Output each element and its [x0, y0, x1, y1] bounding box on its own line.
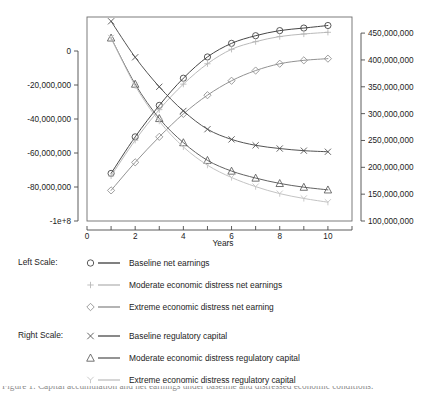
figure-caption-text: Figure 1. Capital accumulation and net e… — [2, 386, 373, 391]
legend-item[interactable]: Extreme economic distress regulatory cap… — [84, 373, 296, 387]
left-axis: 0-20,000,000-40,000,000-60,000,000-80,00… — [27, 47, 78, 226]
chart-series — [107, 34, 331, 193]
right-axis-tick-label: 450,000,000 — [368, 29, 414, 38]
legend-line-swatch — [97, 352, 121, 364]
legend-item-label: Baseline net earnings — [129, 257, 210, 269]
left-axis-tick-label: -20,000,000 — [27, 81, 71, 90]
legend-item[interactable]: Baseline net earnings — [84, 256, 210, 270]
chart-series — [107, 55, 331, 194]
plot-frame — [87, 17, 352, 221]
x-axis-tick-label: 2 — [133, 232, 138, 241]
legend-item[interactable]: Moderate economic distress net earnings — [84, 278, 282, 292]
chart-canvas: 0-20,000,000-40,000,000-60,000,000-80,00… — [0, 0, 443, 250]
legend-marker-plus-icon — [84, 279, 97, 291]
series-layer — [107, 18, 331, 205]
right-axis-tick-label: 100,000,000 — [368, 217, 414, 226]
x-axis-title: Years — [212, 238, 233, 248]
legend-line-swatch — [97, 301, 121, 313]
legend-marker-Y-icon — [84, 374, 97, 386]
legend-item-label: Baseline regulatory capital — [129, 330, 227, 342]
x-axis-tick-label: 10 — [323, 232, 333, 241]
right-axis-tick-label: 400,000,000 — [368, 56, 414, 65]
legend-line-swatch — [97, 279, 121, 291]
x-axis-tick-label: 0 — [85, 232, 90, 241]
chart-series — [108, 29, 331, 179]
right-axis: 450,000,000400,000,000350,000,000300,000… — [361, 29, 414, 226]
legend-line-swatch — [97, 257, 121, 269]
right-axis-tick-label: 300,000,000 — [368, 110, 414, 119]
left-axis-tick-label: -1e+8 — [50, 217, 72, 226]
legend-marker-triangle-icon — [84, 352, 97, 364]
chart-series — [108, 22, 331, 176]
legend-item-label: Moderate economic distress net earnings — [129, 279, 282, 291]
x-axis-tick-label: 4 — [181, 232, 186, 241]
x-axis-tick-label: 8 — [277, 232, 282, 241]
legend-item-label: Moderate economic distress regulatory ca… — [129, 352, 300, 364]
chart-series — [108, 18, 331, 155]
legend-group-label: Left Scale: — [18, 257, 58, 267]
left-axis-tick-label: 0 — [66, 47, 71, 56]
right-axis-tick-label: 250,000,000 — [368, 136, 414, 145]
right-axis-tick-label: 150,000,000 — [368, 190, 414, 199]
legend-line-swatch — [97, 374, 121, 386]
right-axis-tick-label: 350,000,000 — [368, 83, 414, 92]
legend-item[interactable]: Moderate economic distress regulatory ca… — [84, 351, 300, 365]
legend-marker-circle-icon — [84, 257, 97, 269]
figure-container: 0-20,000,000-40,000,000-60,000,000-80,00… — [0, 0, 443, 401]
left-axis-tick-label: -80,000,000 — [27, 183, 71, 192]
left-axis-tick-label: -60,000,000 — [27, 149, 71, 158]
legend-marker-diamond-icon — [84, 301, 97, 313]
legend-item-label: Extreme economic distress net earning — [129, 301, 274, 313]
legend-marker-x-icon — [84, 330, 97, 342]
chart-legend: Left Scale:Baseline net earningsModerate… — [0, 252, 443, 379]
left-axis-tick-label: -40,000,000 — [27, 115, 71, 124]
legend-group-label: Right Scale: — [18, 330, 63, 340]
legend-item[interactable]: Baseline regulatory capital — [84, 329, 227, 343]
legend-line-swatch — [97, 330, 121, 342]
chart-series — [108, 35, 331, 205]
legend-item[interactable]: Extreme economic distress net earning — [84, 300, 274, 314]
right-axis-tick-label: 200,000,000 — [368, 163, 414, 172]
legend-item-label: Extreme economic distress regulatory cap… — [129, 374, 296, 386]
figure-caption: Figure 1. Capital accumulation and net e… — [0, 386, 443, 401]
